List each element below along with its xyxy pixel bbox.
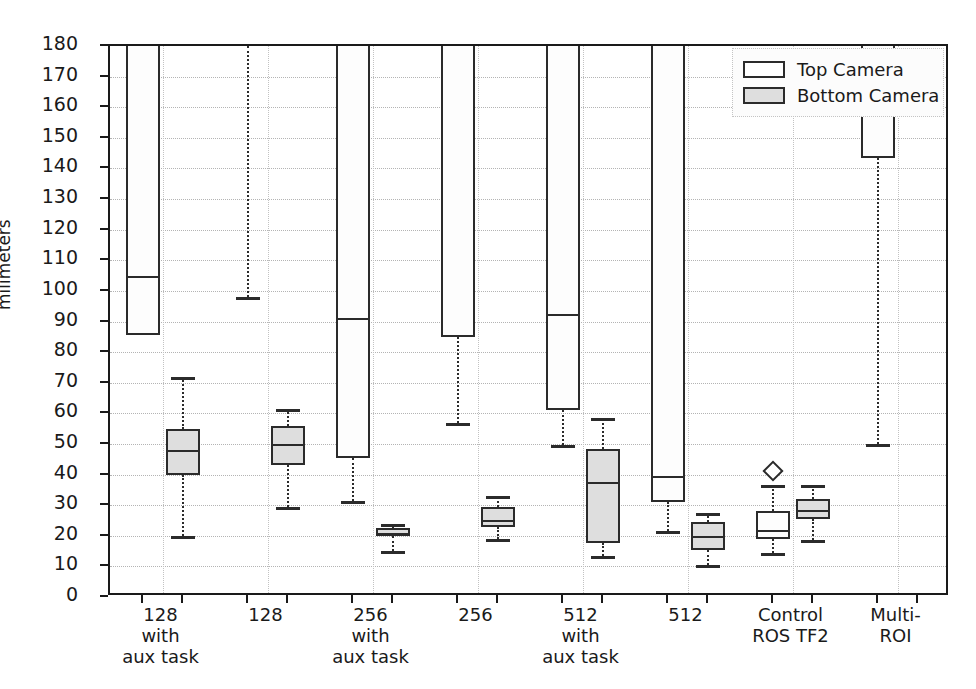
gridline-horizontal bbox=[110, 291, 946, 292]
whisker-lower bbox=[562, 410, 564, 445]
median-line bbox=[376, 533, 410, 535]
y-axis-tick-label: 70 bbox=[54, 371, 78, 390]
y-axis-tick-mark bbox=[100, 75, 108, 77]
whisker-lower bbox=[667, 502, 669, 531]
gridline-horizontal bbox=[110, 199, 946, 200]
whisker-lower bbox=[352, 458, 354, 501]
median-line bbox=[651, 476, 685, 478]
median-line bbox=[271, 444, 305, 446]
gridline-horizontal bbox=[110, 536, 946, 537]
box-top-camera bbox=[336, 44, 370, 458]
y-axis-tick-mark bbox=[100, 105, 108, 107]
whisker-cap-upper bbox=[696, 513, 720, 516]
legend-swatch-bottom-camera bbox=[743, 87, 785, 104]
y-axis-tick-mark bbox=[100, 289, 108, 291]
x-axis-tick-mark bbox=[601, 595, 603, 603]
x-axis-group-label: 128 bbox=[248, 604, 282, 625]
gridline-horizontal bbox=[110, 352, 946, 353]
gridline-vertical bbox=[898, 46, 899, 593]
whisker-cap-upper bbox=[801, 485, 825, 488]
y-axis-tick-label: 60 bbox=[54, 401, 78, 420]
whisker-lower bbox=[392, 536, 394, 551]
gridline-vertical bbox=[478, 46, 479, 593]
y-axis-title: milimeters bbox=[0, 219, 14, 310]
x-axis-tick-mark bbox=[456, 595, 458, 603]
y-axis-tick-label: 20 bbox=[54, 524, 78, 543]
gridline-vertical bbox=[688, 46, 689, 593]
boxplot-chart: milimeters 01020304050607080901001101201… bbox=[0, 0, 976, 689]
y-axis-tick-label: 150 bbox=[42, 126, 78, 145]
gridline-horizontal bbox=[110, 566, 946, 567]
whisker-upper bbox=[182, 377, 184, 429]
y-axis-tick-label: 120 bbox=[42, 218, 78, 237]
y-axis-tick-mark bbox=[100, 411, 108, 413]
y-axis-tick-mark bbox=[100, 534, 108, 536]
y-axis-tick-label: 160 bbox=[42, 95, 78, 114]
whisker-cap-lower bbox=[551, 445, 575, 448]
box-bottom-camera bbox=[586, 449, 620, 544]
median-line bbox=[796, 510, 830, 512]
y-axis-tick-mark bbox=[100, 503, 108, 505]
y-axis-tick-mark bbox=[100, 320, 108, 322]
y-axis-tick-mark bbox=[100, 197, 108, 199]
median-line bbox=[691, 536, 725, 538]
legend-item-top-camera: Top Camera bbox=[743, 56, 933, 82]
median-line bbox=[546, 314, 580, 316]
gridline-vertical bbox=[793, 46, 794, 593]
whisker-cap-lower bbox=[761, 553, 785, 556]
whisker-cap-lower bbox=[381, 551, 405, 554]
whisker-lower bbox=[287, 465, 289, 506]
gridline-horizontal bbox=[110, 322, 946, 323]
whisker-cap-lower bbox=[236, 297, 260, 300]
legend-item-bottom-camera: Bottom Camera bbox=[743, 82, 933, 108]
x-axis-tick-mark bbox=[286, 595, 288, 603]
whisker-cap-upper bbox=[381, 524, 405, 527]
whisker-cap-upper bbox=[486, 496, 510, 499]
y-axis-tick-label: 100 bbox=[42, 279, 78, 298]
y-axis-tick-label: 170 bbox=[42, 65, 78, 84]
gridline-horizontal bbox=[110, 475, 946, 476]
gridline-horizontal bbox=[110, 230, 946, 231]
box-top-camera bbox=[546, 44, 580, 410]
whisker-cap-upper bbox=[591, 418, 615, 421]
x-axis-tick-mark bbox=[246, 595, 248, 603]
gridline-horizontal bbox=[110, 413, 946, 414]
whisker-clipped-stem bbox=[247, 46, 249, 297]
x-axis-tick-mark bbox=[141, 595, 143, 603]
y-axis-tick-label: 130 bbox=[42, 187, 78, 206]
y-axis-tick-mark bbox=[100, 473, 108, 475]
whisker-cap-lower bbox=[341, 501, 365, 504]
x-axis-tick-mark bbox=[666, 595, 668, 603]
whisker-lower bbox=[457, 337, 459, 423]
y-axis-tick-label: 50 bbox=[54, 432, 78, 451]
x-axis-tick-mark bbox=[351, 595, 353, 603]
outlier-marker bbox=[762, 461, 783, 482]
whisker-cap-upper bbox=[171, 377, 195, 380]
gridline-vertical bbox=[163, 46, 164, 593]
gridline-vertical bbox=[268, 46, 269, 593]
whisker-lower bbox=[812, 519, 814, 540]
whisker-cap-lower bbox=[486, 539, 510, 542]
x-axis-group-label: 512 bbox=[668, 604, 702, 625]
x-axis-group-label: Control ROS TF2 bbox=[752, 604, 829, 646]
whisker-upper bbox=[772, 485, 774, 511]
whisker-lower bbox=[707, 550, 709, 565]
whisker-cap-upper bbox=[761, 485, 785, 488]
x-axis-group-label: 512 with aux task bbox=[542, 604, 619, 668]
whisker-lower bbox=[877, 158, 879, 444]
box-top-camera bbox=[651, 44, 685, 502]
x-axis-tick-mark bbox=[771, 595, 773, 603]
gridline-horizontal bbox=[110, 260, 946, 261]
median-line bbox=[166, 450, 200, 452]
y-axis-tick-mark bbox=[100, 381, 108, 383]
gridline-horizontal bbox=[110, 444, 946, 445]
whisker-cap-lower bbox=[446, 423, 470, 426]
x-axis-tick-mark bbox=[811, 595, 813, 603]
box-bottom-camera bbox=[481, 507, 515, 527]
y-axis-tick-label: 0 bbox=[66, 585, 78, 604]
whisker-cap-lower bbox=[656, 531, 680, 534]
y-axis-tick-mark bbox=[100, 595, 108, 597]
whisker-lower bbox=[772, 539, 774, 553]
whisker-cap-lower bbox=[696, 565, 720, 568]
x-axis-tick-mark bbox=[496, 595, 498, 603]
